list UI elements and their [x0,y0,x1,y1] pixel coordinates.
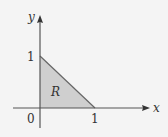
region-label: R [50,85,60,99]
x-axis-label: x [153,101,160,115]
y-axis-arrow-icon [37,15,43,23]
y-axis-label: y [27,10,35,24]
origin-label: 0 [27,112,35,126]
diagram-canvas: x y 1 0 1 R [0,0,168,137]
x-tick-1: 1 [91,112,99,126]
x-axis-arrow-icon [142,105,150,111]
y-tick-1: 1 [27,50,35,64]
